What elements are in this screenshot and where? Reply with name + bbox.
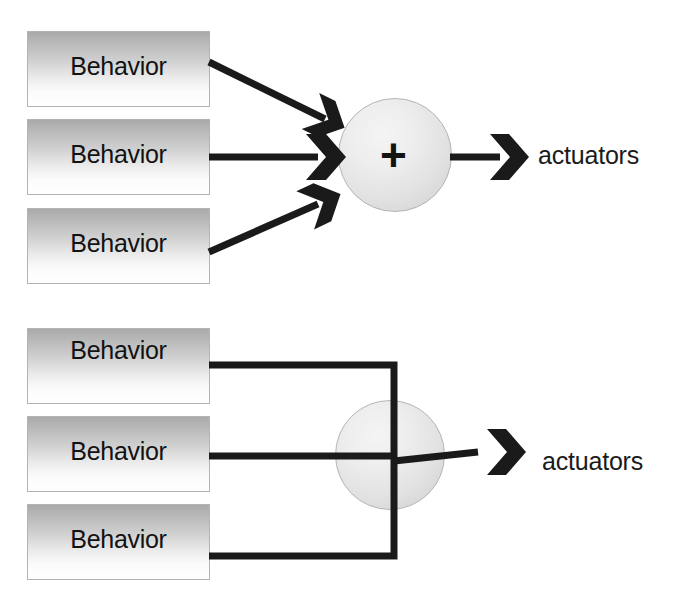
crossed-circle-icon[interactable] (335, 400, 445, 510)
behavior-box-6[interactable]: Behavior (27, 504, 210, 580)
behavior-box-label: Behavior (28, 54, 209, 79)
behavior-box-label: Behavior (28, 338, 209, 363)
behavior-box-label: Behavior (28, 142, 209, 167)
summation-panel: Behavior Behavior Behavior + actuators (0, 0, 699, 306)
behavior-box-2[interactable]: Behavior (27, 119, 210, 195)
behavior-box-3[interactable]: Behavior (27, 208, 210, 284)
behavior-box-1[interactable]: Behavior (27, 31, 210, 107)
behavior-box-label: Behavior (28, 527, 209, 552)
behavior-box-4[interactable]: Behavior (27, 328, 210, 404)
behavior-box-5[interactable]: Behavior (27, 416, 210, 492)
diagram-root: Behavior Behavior Behavior + actuators B… (0, 0, 699, 613)
behavior-box-label: Behavior (28, 439, 209, 464)
plus-icon: + (380, 132, 407, 178)
actuators-output-label: actuators (542, 449, 643, 474)
behavior-box-label: Behavior (28, 231, 209, 256)
actuators-output-label: actuators (538, 143, 639, 168)
crossbar-panel: Behavior Behavior Behavior actuators (0, 306, 699, 613)
